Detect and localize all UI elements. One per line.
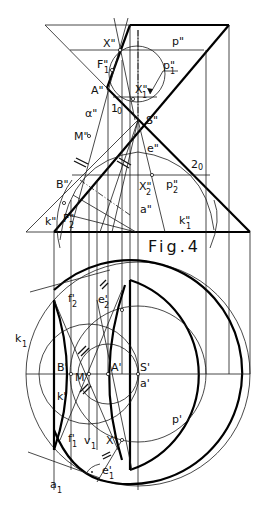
label-alpha: α" <box>85 107 97 120</box>
label-k-plan: k' <box>57 390 66 403</box>
svg-text:0: 0 <box>117 107 122 116</box>
svg-text:1: 1 <box>104 66 109 75</box>
label-S-plan: S' <box>140 361 150 374</box>
label-A: A" <box>91 84 104 97</box>
label-a1: a <box>50 478 57 491</box>
svg-text:1: 1 <box>57 486 62 495</box>
label-p: p" <box>172 35 184 48</box>
label-e: e" <box>147 142 159 155</box>
label-B: B" <box>56 178 69 191</box>
svg-text:1: 1 <box>22 340 27 349</box>
svg-text:2: 2 <box>69 221 74 230</box>
svg-text:2: 2 <box>146 188 151 197</box>
label-p-plan: p' <box>172 413 182 426</box>
svg-text:1: 1 <box>186 222 191 231</box>
label-k: k" <box>45 215 56 228</box>
label-M-plan: M' <box>75 371 88 384</box>
svg-text:1: 1 <box>142 91 147 100</box>
label-X: X" <box>103 37 116 50</box>
svg-text:1: 1 <box>91 442 96 451</box>
svg-text:2: 2 <box>72 300 77 309</box>
label-X-plan: X' <box>106 434 117 447</box>
svg-text:1: 1 <box>72 440 77 449</box>
label-S: S" <box>146 114 158 127</box>
label-k1-plan: k <box>15 332 22 345</box>
figure-caption: Fig.4 <box>148 237 201 256</box>
label-A-plan: A' <box>111 361 122 374</box>
label-B-plan: B' <box>57 361 68 374</box>
svg-text:1: 1 <box>109 472 114 481</box>
svg-text:1: 1 <box>170 67 175 76</box>
label-a-plan: a' <box>140 377 150 390</box>
elevation-labels: X" p" F" 1 p" 1 A" X" 1 1 0 α" S" M" e" … <box>45 35 203 231</box>
label-M: M" <box>74 130 89 143</box>
label-a: a" <box>140 203 152 216</box>
label-v1: v <box>84 434 91 447</box>
projection-lines <box>54 25 250 490</box>
descriptive-geometry-figure: Fig.4 <box>0 0 267 521</box>
svg-text:2: 2 <box>173 186 178 195</box>
label-2-0: 2 <box>191 158 198 171</box>
svg-text:2: 2 <box>104 301 109 310</box>
svg-text:0: 0 <box>198 163 203 172</box>
